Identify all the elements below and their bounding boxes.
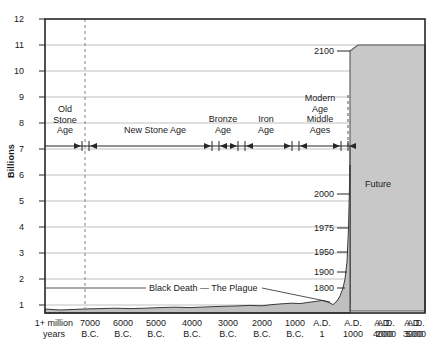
x-tick-line-1: 4000 (172, 318, 212, 329)
era-label-iron-age: Iron Age (251, 114, 281, 135)
year-annotation-1950: 1950 (288, 248, 334, 257)
era-line-1: Old (46, 104, 84, 115)
era-line-1: Iron (251, 114, 281, 125)
era-label-modern-age: Modern Age (297, 93, 343, 114)
era-label-bronze-age: Bronze Age (205, 114, 241, 135)
era-line-1: Modern (297, 93, 343, 104)
population-growth-chart: Billions 12 11 10 9 8 7 6 5 4 3 2 1 (0, 0, 437, 349)
era-line-1: Bronze (205, 114, 241, 125)
x-tick-line-2: 5000 (398, 329, 434, 340)
era-line-2: Stone (46, 115, 84, 126)
x-tick-line-1: 5000 (136, 318, 176, 329)
era-line-1: Middle (297, 114, 343, 125)
x-tick-4: 4000 B.C. (172, 318, 212, 340)
era-line-2: Age (297, 104, 343, 115)
plague-annotation: Black Death — The Plague (149, 284, 257, 293)
x-tick-line-1: A.D. (398, 318, 434, 329)
era-label-old-stone-age: Old Stone Age (46, 104, 84, 136)
future-region-label: Future (365, 180, 391, 189)
era-line-2: Age (251, 125, 281, 136)
future-region (350, 45, 425, 311)
x-tick-12: A.D. 4000 (366, 318, 400, 340)
x-tick-line-2: B.C. (172, 329, 212, 340)
era-line-1: New Stone Age (100, 125, 210, 136)
x-tick-line-2: B.C. (136, 329, 176, 340)
year-annotation-1975: 1975 (288, 224, 334, 233)
year-annotation-2100: 2100 (288, 47, 334, 56)
era-line-2: Ages (297, 125, 343, 136)
x-tick-3: 5000 B.C. (136, 318, 176, 340)
era-label-middle-ages: Middle Ages (297, 114, 343, 135)
x-tick-line-2: 4000 (366, 329, 400, 340)
year-annotation-2000: 2000 (288, 190, 334, 199)
x-tick-line-1: A.D. (366, 318, 400, 329)
plot-surface (0, 0, 437, 349)
era-label-new-stone-age: New Stone Age (100, 125, 210, 136)
y-axis-ticks (39, 19, 45, 305)
x-tick-13: A.D. 5000 (398, 318, 434, 340)
year-annotation-1800: 1800 (288, 284, 334, 293)
era-line-2: Age (205, 125, 241, 136)
year-annotation-1900: 1900 (288, 268, 334, 277)
era-line-3: Age (46, 125, 84, 136)
